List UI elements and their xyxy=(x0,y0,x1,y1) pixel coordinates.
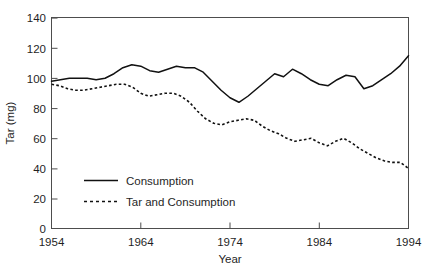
y-tick-marks xyxy=(52,18,58,228)
legend-label-tar-and-consumption: Tar and Consumption xyxy=(126,196,235,208)
y-axis-title: Tar (mg) xyxy=(4,101,16,144)
y-tick-label: 0 xyxy=(40,223,46,235)
y-tick-label: 120 xyxy=(27,43,46,55)
y-tick-label: 60 xyxy=(33,133,46,145)
x-tick-label: 1994 xyxy=(396,236,422,248)
x-tick-marks xyxy=(52,223,409,229)
x-tick-label: 1974 xyxy=(217,236,243,248)
chart-legend: Consumption Tar and Consumption xyxy=(84,175,235,208)
x-tick-labels: 1954 1964 1974 1984 1994 xyxy=(39,236,422,248)
y-tick-label: 100 xyxy=(27,73,46,85)
line-chart: 140 120 100 80 60 40 20 0 1954 1964 1974… xyxy=(0,0,433,270)
series-line-consumption xyxy=(52,56,409,103)
x-tick-label: 1954 xyxy=(39,236,65,248)
y-tick-label: 80 xyxy=(33,103,46,115)
chart-figure: 140 120 100 80 60 40 20 0 1954 1964 1974… xyxy=(0,0,433,270)
y-tick-label: 40 xyxy=(33,163,46,175)
x-tick-label: 1964 xyxy=(128,236,154,248)
y-tick-labels: 140 120 100 80 60 40 20 0 xyxy=(27,12,46,234)
x-axis-title: Year xyxy=(218,253,241,265)
y-tick-label: 20 xyxy=(33,193,46,205)
legend-label-consumption: Consumption xyxy=(126,175,194,187)
y-tick-label: 140 xyxy=(27,12,46,24)
x-tick-label: 1984 xyxy=(307,236,333,248)
